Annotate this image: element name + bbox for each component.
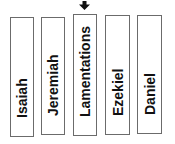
book-label: Ezekiel: [111, 69, 125, 116]
book-spine-lamentations: Lamentations: [73, 14, 97, 136]
book-spine-isaiah: Isaiah: [10, 17, 34, 137]
book-spine-ezekiel: Ezekiel: [105, 15, 130, 135]
book-label: Jeremiah: [46, 55, 60, 116]
down-arrow-icon: [79, 1, 90, 10]
book-spine-daniel: Daniel: [137, 15, 162, 134]
book-label: Lamentations: [78, 26, 92, 117]
book-spine-jeremiah: Jeremiah: [41, 17, 65, 135]
book-label: Isaiah: [15, 78, 29, 118]
book-label: Daniel: [143, 73, 157, 115]
